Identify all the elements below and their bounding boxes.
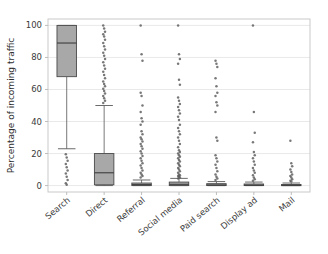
outlier-point [102,33,105,36]
outlier-point [66,169,69,172]
outlier-point [216,160,219,163]
outlier-point [103,64,106,67]
outlier-point [104,67,107,70]
outlier-point [214,164,217,167]
ytick-label-20: 20 [31,149,42,159]
outlier-point [214,77,217,80]
outlier-point [179,112,182,115]
boxplot-series [57,24,301,186]
outlier-point [66,179,69,182]
outlier-point [139,150,142,153]
outlier-point [179,83,182,86]
outlier-point [65,153,68,156]
outlier-point [104,85,107,88]
outlier-point [103,83,106,86]
xtick-label-referral: Referral [115,195,147,224]
outlier-point [141,155,144,158]
outlier-point [102,61,105,64]
boxplot-direct [94,24,113,185]
outlier-point [214,111,217,114]
y-axis-title: Percentage of incoming traffic [6,38,16,174]
xtick-label-paid-search: Paid search [178,195,222,234]
boxplot-figure: 020406080100 Percentage of incoming traf… [0,0,328,254]
outlier-point [252,24,255,27]
boxplot-display-ad [244,24,263,185]
outlier-point [177,96,180,99]
outlier-point [289,168,292,171]
outlier-point [103,74,106,77]
outlier-point [177,177,180,180]
outlier-point [102,87,105,90]
ytick-label-60: 60 [31,84,42,94]
outlier-point [65,172,68,175]
outlier-point [290,162,293,165]
outlier-point [65,176,68,179]
boxplot-paid-search [207,59,226,185]
outlier-point [177,146,180,149]
outlier-point [140,152,143,155]
outlier-point [141,169,144,172]
ytick-label-40: 40 [31,117,42,127]
outlier-point [178,139,181,142]
outlier-point [179,58,182,61]
outlier-point [215,157,218,160]
outlier-point [290,171,293,174]
x-axis-ticks: SearchDirectReferralSocial mediaPaid sea… [43,192,296,237]
outlier-point [66,160,69,163]
outlier-point [253,111,256,114]
outlier-point [254,172,257,175]
outlier-point [103,27,106,30]
outlier-point [139,143,142,146]
outlier-point [252,174,255,177]
outlier-point [178,79,181,82]
outlier-point [141,148,144,151]
outlier-point [104,99,107,102]
outlier-point [252,157,255,160]
outlier-point [102,71,105,74]
outlier-point [177,115,180,118]
outlier-point [178,53,181,56]
box [94,154,113,185]
boxplot-referral [132,24,151,185]
outlier-point [104,58,107,61]
xtick-label-display-ad: Display ad [219,195,260,231]
ytick-label-80: 80 [31,52,42,62]
outlier-point [177,136,180,139]
outlier-point [214,173,217,176]
outlier-point [177,127,180,130]
outlier-point [141,133,144,136]
outlier-point [139,164,142,167]
outlier-point [254,154,257,157]
outlier-point [290,180,293,183]
outlier-point [252,167,255,170]
outlier-point [139,24,142,27]
outlier-point [215,63,218,66]
outlier-point [140,145,143,148]
outlier-point [103,35,106,38]
outlier-point [104,77,107,80]
outlier-point [215,167,218,170]
outlier-point [103,55,106,58]
outlier-point [216,170,219,173]
outlier-point [177,24,180,27]
y-axis-label: Percentage of incoming traffic [6,38,16,174]
outlier-point [215,101,218,104]
outlier-point [139,176,142,179]
outlier-point [179,143,182,146]
outlier-point [253,151,256,154]
outlier-point [102,51,105,54]
outlier-point [254,164,257,167]
outlier-point [140,160,143,163]
y-axis-ticks: 020406080100 [26,20,48,190]
outlier-point [103,45,106,48]
chart-canvas: 020406080100 Percentage of incoming traf… [0,0,328,254]
outlier-point [139,157,142,160]
ytick-label-0: 0 [37,181,42,191]
outlier-point [253,169,256,172]
outlier-point [65,163,68,166]
outlier-point [102,42,105,45]
outlier-point [214,179,217,182]
outlier-point [140,138,143,141]
outlier-point [177,106,180,109]
outlier-point [214,154,217,157]
